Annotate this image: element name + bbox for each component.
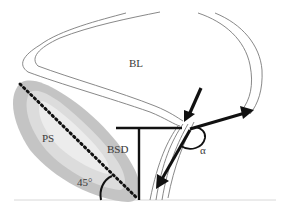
label-angle-45: 45° xyxy=(77,177,92,188)
label-bsd: BSD xyxy=(107,144,128,155)
label-pubic-symphysis: PS xyxy=(42,133,54,144)
diagram-graphics xyxy=(0,0,289,206)
label-angle-alpha: α xyxy=(200,145,206,156)
pelvic-floor-ultrasound-diagram: BL PS BSD 45° α xyxy=(0,0,289,206)
bladder-base-arrow xyxy=(190,106,254,129)
bladder-neck-pointer-arrow xyxy=(184,88,201,122)
label-bladder: BL xyxy=(129,58,143,69)
